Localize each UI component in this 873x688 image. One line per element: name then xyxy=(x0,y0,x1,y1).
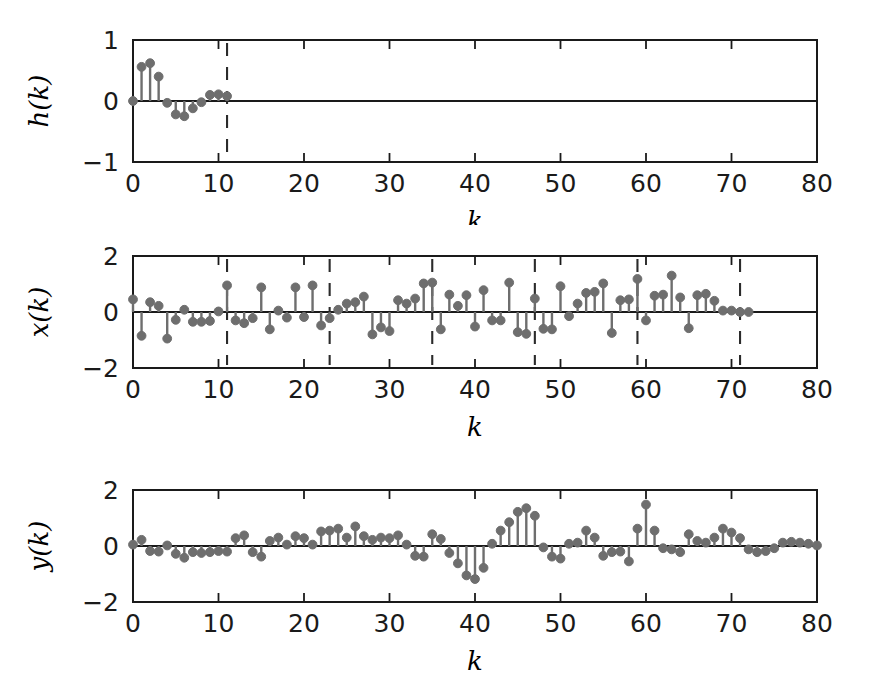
stem-marker xyxy=(317,527,326,536)
stem-marker xyxy=(137,62,146,71)
y-tick-label: 0 xyxy=(103,298,119,327)
stem-marker xyxy=(530,294,539,303)
stem-marker xyxy=(265,325,274,334)
stem-marker xyxy=(129,97,138,106)
stem-marker xyxy=(154,547,163,556)
stem-marker xyxy=(274,533,283,542)
x-tick-label: 10 xyxy=(203,169,235,198)
stem-marker xyxy=(582,289,591,298)
stem-marker xyxy=(377,533,386,542)
stem-marker xyxy=(684,324,693,333)
stem-marker xyxy=(462,571,471,580)
stem-marker xyxy=(223,92,232,101)
stem-marker xyxy=(616,296,625,305)
x-tick-label: 0 xyxy=(125,375,141,404)
x-tick-label: 60 xyxy=(630,375,662,404)
stem-marker xyxy=(727,528,736,537)
y-tick-label: 1 xyxy=(103,26,119,55)
stem-marker xyxy=(351,522,360,531)
stem-marker xyxy=(719,524,728,533)
stem-marker xyxy=(402,299,411,308)
stem-marker xyxy=(650,526,659,535)
stem-marker xyxy=(659,544,668,553)
stem-marker xyxy=(556,282,565,291)
stem-marker xyxy=(231,534,240,543)
x-tick-label: 40 xyxy=(459,375,491,404)
stem-marker xyxy=(180,305,189,314)
stem-marker xyxy=(633,524,642,533)
stem-marker xyxy=(676,548,685,557)
stem-marker xyxy=(770,544,779,553)
x-axis-label: k xyxy=(467,412,483,442)
stem-marker xyxy=(488,539,497,548)
x-tick-label: 30 xyxy=(374,169,406,198)
x-tick-label: 10 xyxy=(203,609,235,638)
stem-marker xyxy=(642,316,651,325)
stem-marker xyxy=(736,534,745,543)
stem-marker xyxy=(428,278,437,287)
stem-marker xyxy=(240,319,249,328)
x-tick-label: 20 xyxy=(288,375,320,404)
stem-marker xyxy=(530,511,539,520)
stem-marker xyxy=(693,537,702,546)
stem-marker xyxy=(505,278,514,287)
stem-marker xyxy=(445,549,454,558)
x-tick-label: 0 xyxy=(125,609,141,638)
stem-marker xyxy=(599,279,608,288)
x-tick-label: 50 xyxy=(545,609,577,638)
figure-root: 10−101020304050607080kh(k) 20−2010203040… xyxy=(0,0,873,688)
x-axis-label: k xyxy=(467,206,483,225)
stem-marker xyxy=(479,563,488,572)
stem-marker xyxy=(223,281,232,290)
stem-marker xyxy=(197,549,206,558)
stem-marker xyxy=(402,540,411,549)
y-tick-label: −2 xyxy=(82,588,119,617)
stem-marker xyxy=(248,548,257,557)
stem-marker xyxy=(727,306,736,315)
stem-marker xyxy=(479,286,488,295)
stem-marker xyxy=(171,110,180,119)
y-axis-label: h(k) xyxy=(24,75,54,128)
stem-marker xyxy=(129,295,138,304)
stem-marker xyxy=(548,552,557,561)
stem-marker xyxy=(291,283,300,292)
stem-marker xyxy=(214,90,223,99)
stem-marker xyxy=(368,330,377,339)
stem-marker xyxy=(300,534,309,543)
stem-marker xyxy=(684,530,693,539)
x-tick-label: 80 xyxy=(801,375,833,404)
stem-marker xyxy=(197,98,206,107)
x-tick-label: 80 xyxy=(801,609,833,638)
y-tick-label: 0 xyxy=(103,532,119,561)
stem-marker xyxy=(394,531,403,540)
stem-marker xyxy=(257,552,266,561)
stem-marker xyxy=(359,292,368,301)
stem-marker xyxy=(163,334,172,343)
stem-marker xyxy=(171,315,180,324)
panel-xk: 20−201020304050607080kx(k) xyxy=(0,228,873,460)
plot-yk: 20−201020304050607080ky(k) xyxy=(0,462,873,688)
stem-marker xyxy=(650,291,659,300)
x-tick-label: 60 xyxy=(630,609,662,638)
stem-marker xyxy=(573,538,582,547)
stem-marker xyxy=(539,543,548,552)
stem-marker xyxy=(240,531,249,540)
stem-marker xyxy=(454,301,463,310)
stem-marker xyxy=(419,279,428,288)
stem-marker xyxy=(180,112,189,121)
stem-marker xyxy=(188,317,197,326)
stem-marker xyxy=(436,325,445,334)
stem-marker xyxy=(291,532,300,541)
stem-marker xyxy=(607,329,616,338)
stem-marker xyxy=(411,294,420,303)
stem-marker xyxy=(342,299,351,308)
stem-marker xyxy=(171,549,180,558)
stem-marker xyxy=(659,290,668,299)
y-axis-label: x(k) xyxy=(24,287,54,338)
stem-marker xyxy=(214,547,223,556)
stem-marker xyxy=(411,551,420,560)
stem-marker xyxy=(582,526,591,535)
stem-marker xyxy=(513,507,522,516)
stem-marker xyxy=(616,547,625,556)
stem-marker xyxy=(642,500,651,509)
